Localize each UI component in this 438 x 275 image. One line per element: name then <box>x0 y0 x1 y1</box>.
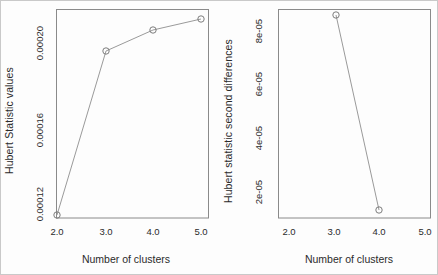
x-tick-label: 3.0 <box>90 226 122 237</box>
data-line-left <box>57 19 201 215</box>
x-tick-label: 4.0 <box>363 226 395 237</box>
plot-frame-left <box>57 10 209 219</box>
x-tick-label: 3.0 <box>318 226 350 237</box>
data-line-right <box>336 15 379 210</box>
x-axis-title-left: Number of clusters <box>41 253 211 265</box>
chart-panel-left: Hubert Statistic values 0.00020 0.00016 … <box>1 1 220 275</box>
x-tick-label: 2.0 <box>41 226 73 237</box>
plot-frame-right <box>279 10 431 219</box>
x-tick-label: 5.0 <box>185 226 217 237</box>
x-tick-label: 4.0 <box>137 226 169 237</box>
x-tick-label: 2.0 <box>273 226 305 237</box>
chart-panel-right: Hubert statistic second differences 8e-0… <box>220 1 438 275</box>
x-tick-label: 5.0 <box>409 226 438 237</box>
x-axis-title-right: Number of clusters <box>264 253 434 265</box>
figure-container: Hubert Statistic values 0.00020 0.00016 … <box>0 0 438 275</box>
